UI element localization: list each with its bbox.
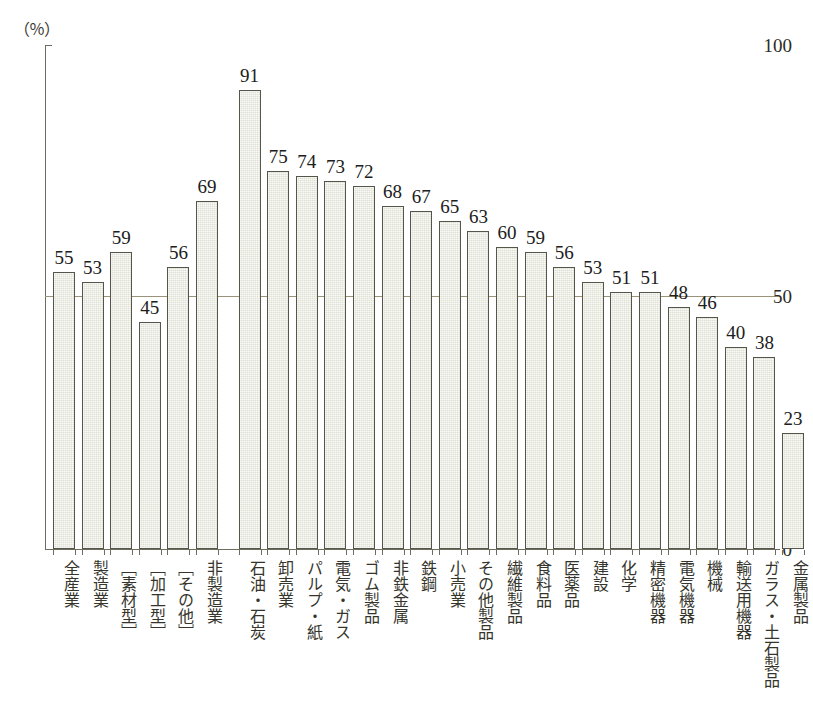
x-tick — [632, 550, 633, 555]
bar — [639, 292, 661, 549]
bar — [324, 181, 346, 549]
x-tick — [690, 550, 691, 555]
x-tick — [346, 550, 347, 555]
x-tick — [747, 550, 748, 555]
x-tick — [410, 550, 411, 555]
category-label: ［その他］ — [169, 560, 193, 640]
bar — [525, 252, 547, 549]
category-label: 輸送用機器 — [727, 560, 751, 640]
bar — [353, 186, 375, 549]
x-tick — [75, 550, 76, 555]
x-tick — [110, 550, 111, 555]
bar-value-label: 53 — [71, 258, 115, 277]
y-tick-label-100: 100 — [752, 36, 792, 55]
x-tick — [439, 550, 440, 555]
bar-value-label: 59 — [99, 228, 143, 247]
category-label: 食料品 — [527, 560, 551, 608]
bar — [139, 322, 161, 549]
category-label: 精密機器 — [641, 560, 665, 624]
x-tick — [718, 550, 719, 555]
x-tick — [139, 550, 140, 555]
bar-value-label: 56 — [156, 243, 200, 262]
category-label: 全産業 — [55, 560, 79, 608]
bar — [82, 282, 104, 549]
category-label: 非鉄金属 — [384, 560, 408, 624]
bar-value-label: 38 — [742, 333, 786, 352]
x-tick — [661, 550, 662, 555]
x-tick — [404, 550, 405, 555]
category-label: 小売業 — [441, 560, 465, 608]
category-label: 非製造業 — [198, 560, 222, 624]
x-tick — [82, 550, 83, 555]
bar — [267, 171, 289, 549]
bar — [467, 231, 489, 549]
category-label: ゴム製品 — [355, 560, 379, 624]
category-label: ［素材型］ — [112, 560, 136, 640]
x-tick — [725, 550, 726, 555]
x-tick — [753, 550, 754, 555]
x-tick — [267, 550, 268, 555]
bar — [582, 282, 604, 549]
x-tick — [218, 550, 219, 555]
x-tick — [353, 550, 354, 555]
x-tick — [53, 550, 54, 555]
x-tick — [261, 550, 262, 555]
x-tick — [668, 550, 669, 555]
x-axis-line — [45, 549, 780, 550]
bar — [610, 292, 632, 549]
category-label: ［加工型］ — [141, 560, 165, 640]
x-tick — [167, 550, 168, 555]
x-tick — [104, 550, 105, 555]
x-tick — [489, 550, 490, 555]
category-label: 電気・ガス — [326, 560, 350, 640]
category-label: ガラス・土石製品 — [755, 560, 779, 688]
x-tick — [525, 550, 526, 555]
x-tick — [467, 550, 468, 555]
x-tick — [196, 550, 197, 555]
bar — [753, 357, 775, 549]
bar — [496, 247, 518, 549]
x-tick — [496, 550, 497, 555]
category-label: パルプ・紙 — [298, 560, 322, 640]
category-label: 医薬品 — [555, 560, 579, 608]
bar — [725, 347, 747, 549]
category-label: 石油・石炭 — [241, 560, 265, 640]
bar-value-label: 72 — [342, 162, 386, 181]
x-tick — [696, 550, 697, 555]
bar — [382, 206, 404, 549]
bar — [439, 221, 461, 549]
x-tick — [639, 550, 640, 555]
x-tick — [782, 550, 783, 555]
y-tick-label-50: 50 — [752, 287, 792, 306]
x-tick — [775, 550, 776, 555]
x-tick — [189, 550, 190, 555]
x-tick — [375, 550, 376, 555]
x-tick — [553, 550, 554, 555]
y-axis-top-tick — [45, 45, 52, 46]
x-tick — [324, 550, 325, 555]
x-tick — [289, 550, 290, 555]
x-tick — [132, 550, 133, 555]
x-tick — [547, 550, 548, 555]
x-tick — [382, 550, 383, 555]
x-tick — [518, 550, 519, 555]
x-tick — [318, 550, 319, 555]
category-label: 製造業 — [84, 560, 108, 608]
y-axis-unit-label: （％） — [14, 22, 59, 38]
x-tick — [296, 550, 297, 555]
bar-value-label: 45 — [128, 298, 172, 317]
bar — [53, 272, 75, 549]
bar — [296, 176, 318, 549]
x-tick — [432, 550, 433, 555]
x-tick — [575, 550, 576, 555]
category-label: 機械 — [698, 560, 722, 592]
y-axis-line — [45, 45, 46, 550]
bar — [167, 267, 189, 549]
x-tick — [604, 550, 605, 555]
x-tick — [461, 550, 462, 555]
bar — [410, 211, 432, 549]
category-label: 電気機器 — [670, 560, 694, 624]
bar-value-label: 69 — [185, 177, 229, 196]
bar-value-label: 23 — [771, 409, 813, 428]
